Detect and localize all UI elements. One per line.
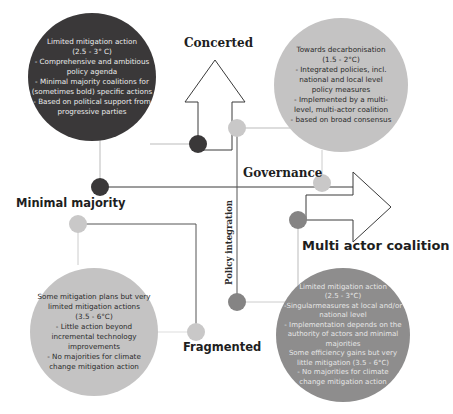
multi-actor-coalition-label: Multi actor coalition [302,238,450,253]
quadrant-bottom-right-bubble: Limited mitigation action (2.5 - 3°C) -S… [276,268,410,402]
governance-label: Governance [243,166,322,180]
minimal-majority-label: Minimal majority [16,196,125,210]
policy-integration-label: Policy integration [224,200,234,285]
top-left-connector-dot [189,135,207,153]
quadrant-top-left-bubble: Limited mitigation action (2.5 - 3° C) -… [28,13,156,141]
minimal-majority-connector-dot [91,178,109,196]
policy-integration-connector-dot [228,293,246,311]
fragmented-connector-dot [187,323,205,341]
quadrant-bottom-left-bubble: Some mitigation plans but very limited m… [30,268,158,396]
quadrant-top-left-text: Limited mitigation action (2.5 - 3° C) -… [32,37,153,117]
bottom-left-connector-dot [69,215,87,233]
top-right-connector-dot [228,119,246,137]
quadrant-top-right-text: Towards decarbonisation (1.5 - 2°C) - In… [291,45,392,125]
quadrant-bottom-left-text: Some mitigation plans but very limited m… [37,292,150,372]
multi-actor-connector-dot [289,211,307,229]
concerted-label: Concerted [184,36,253,50]
fragmented-label: Fragmented [183,340,261,354]
quadrant-top-right-bubble: Towards decarbonisation (1.5 - 2°C) - In… [274,18,408,152]
quadrant-bottom-right-text: Limited mitigation action (2.5 - 3°C) -S… [284,283,402,388]
